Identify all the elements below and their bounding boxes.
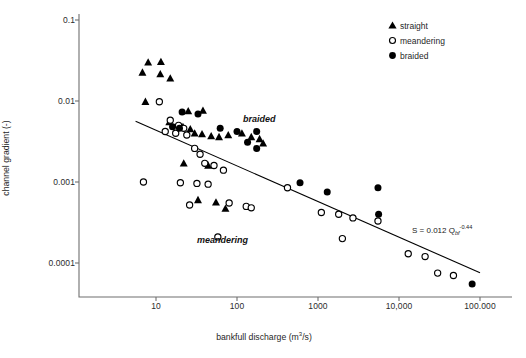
point-straight-21: [194, 196, 202, 203]
legend-label-straight: straight: [399, 21, 428, 31]
scatter-plot-canvas: [0, 0, 526, 358]
point-meandering-12: [140, 179, 146, 185]
point-meandering-15: [205, 181, 211, 187]
annotation-meandering: meandering: [197, 235, 248, 245]
point-meandering-21: [284, 185, 290, 191]
triangle-icon: [385, 20, 399, 31]
series-straight: [138, 58, 267, 212]
point-straight-4: [166, 74, 174, 81]
equation-subscript: bf: [455, 230, 460, 236]
point-braided-1: [194, 111, 201, 118]
point-braided-0: [179, 109, 186, 116]
legend-item-braided[interactable]: braided: [385, 48, 445, 63]
point-straight-3: [156, 70, 164, 77]
point-braided-10: [324, 189, 331, 196]
point-straight-22: [212, 198, 220, 205]
data-points-group: [138, 58, 475, 288]
point-meandering-22: [318, 209, 324, 215]
legend-label-braided: braided: [399, 51, 428, 61]
x-tick-label-2: 1000: [308, 301, 327, 311]
point-straight-6: [184, 107, 192, 114]
point-meandering-6: [184, 132, 190, 138]
point-meandering-26: [339, 236, 345, 242]
annotation-braided: braided: [243, 114, 276, 124]
filled-circle-icon: [385, 50, 399, 61]
point-meandering-0: [156, 99, 162, 105]
point-straight-2: [138, 68, 146, 75]
legend: straightmeanderingbraided: [385, 18, 445, 63]
point-straight-15: [224, 131, 232, 138]
point-braided-13: [469, 281, 476, 288]
point-braided-5: [234, 128, 241, 135]
point-straight-12: [198, 130, 206, 137]
equation-superscript: -0.44: [460, 224, 473, 230]
point-braided-7: [244, 139, 251, 146]
point-braided-9: [297, 179, 304, 186]
regression-equation-label: S = 0.012 Qbf-0.44: [412, 224, 472, 236]
point-meandering-17: [226, 200, 232, 206]
point-meandering-23: [336, 211, 342, 217]
x-tick-label-0: 10: [151, 301, 161, 311]
point-meandering-7: [192, 145, 198, 151]
open-circle-icon: [385, 35, 399, 46]
point-braided-6: [253, 128, 260, 135]
legend-label-meandering: meandering: [399, 36, 445, 46]
x-tick-label-1: 100: [230, 301, 244, 311]
legend-item-straight[interactable]: straight: [385, 18, 445, 33]
point-meandering-24: [350, 215, 356, 221]
x-tick-label-4: 100.000: [464, 301, 495, 311]
y-axis-title: channel gradient (-): [1, 120, 11, 195]
x-axis-title: bankfull discharge (m3/s): [216, 331, 312, 342]
point-meandering-28: [422, 253, 428, 259]
point-braided-8: [253, 145, 260, 152]
point-meandering-14: [194, 180, 200, 186]
point-meandering-1: [167, 117, 173, 123]
point-meandering-4: [162, 128, 168, 134]
y-tick-label-1: 0.01: [58, 96, 75, 106]
point-meandering-8: [197, 151, 203, 157]
chart-figure: 0.10.010.0010.0001 10100100010,000100.00…: [0, 0, 526, 358]
point-straight-0: [144, 58, 152, 65]
point-meandering-10: [211, 162, 217, 168]
point-straight-14: [215, 133, 223, 140]
point-meandering-19: [248, 205, 254, 211]
point-meandering-11: [220, 167, 226, 173]
y-tick-label-3: 0.0001: [48, 258, 75, 268]
point-meandering-16: [187, 202, 193, 208]
point-straight-10: [186, 125, 194, 132]
axis-frame: [79, 14, 512, 297]
series-braided: [169, 109, 476, 288]
point-meandering-27: [405, 251, 411, 257]
point-straight-19: [180, 159, 188, 166]
point-meandering-9: [202, 160, 208, 166]
x-axis-title-suffix: /s): [302, 332, 312, 342]
x-tick-label-3: 10,000: [386, 301, 413, 311]
regression-line-group: [136, 121, 480, 273]
y-tick-label-2: 0.001: [53, 177, 75, 187]
point-meandering-25: [375, 218, 381, 224]
regression-line: [136, 121, 480, 273]
point-braided-2: [169, 123, 176, 130]
legend-item-meandering[interactable]: meandering: [385, 33, 445, 48]
point-meandering-13: [177, 180, 183, 186]
point-straight-13: [207, 132, 215, 139]
equation-prefix: S = 0.012 Q: [412, 226, 455, 235]
point-straight-5: [141, 98, 149, 105]
point-braided-11: [374, 184, 381, 191]
point-braided-4: [217, 125, 224, 132]
point-braided-12: [375, 211, 382, 218]
x-axis-title-prefix: bankfull discharge (m: [216, 332, 299, 342]
point-meandering-29: [435, 270, 441, 276]
point-straight-1: [157, 58, 165, 65]
series-meandering: [140, 99, 456, 279]
y-tick-label-0: 0.1: [63, 15, 75, 25]
point-braided-3: [176, 125, 183, 132]
point-meandering-30: [450, 272, 456, 278]
